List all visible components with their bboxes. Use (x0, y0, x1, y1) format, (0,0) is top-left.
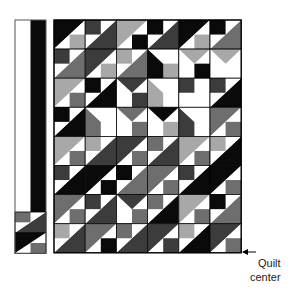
quilt-diagram (0, 0, 296, 305)
quilt-center-label: ◀— Quilt (258, 257, 281, 270)
label-line1: Quilt (258, 257, 281, 270)
quilt-center-label-2: center (250, 271, 281, 284)
